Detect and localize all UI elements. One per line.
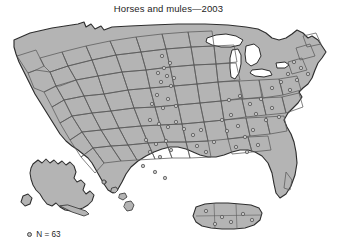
map-dot-marker [141,164,144,167]
map-dot-marker [220,215,223,218]
dot-distribution-map-figure: Horses and mules—2003 [0,0,337,249]
map-dot-marker [150,102,153,105]
map-dot-marker [169,84,172,87]
map-dot-marker [157,122,160,125]
map-dot-marker [245,150,248,153]
map-dot-marker [227,98,230,101]
map-dot-marker [238,94,241,97]
map-dot-marker [172,76,175,79]
map-dot-marker [204,209,207,212]
map-dot-marker [164,139,167,142]
map-dot-marker [306,72,309,75]
map-dot-marker [162,66,165,69]
map-dot-marker [166,97,169,100]
map-dot-marker [154,142,157,145]
map-dot-marker [241,212,244,215]
map-dot-marker [220,118,223,121]
map-dot-marker [191,133,194,136]
us-map-graphic [0,0,337,249]
map-dot-marker [155,93,158,96]
map-dot-marker [144,138,147,141]
open-circle-marker-icon [27,232,32,237]
map-dot-marker [153,170,156,173]
map-dot-marker [288,88,291,91]
map-dot-marker [243,135,246,138]
map-dot-marker [169,148,172,151]
map-landmasses [14,22,326,229]
map-dot-marker [259,97,262,100]
map-dot-marker [165,74,168,77]
map-dot-marker [148,150,151,153]
legend-count-label: N = 63 [36,230,60,239]
map-dot-marker [156,71,159,74]
map-dot-marker [212,140,215,143]
map-dot-marker [250,218,253,221]
map-dot-marker [158,155,161,158]
map-dot-marker [229,220,232,223]
map-dot-marker [234,145,237,148]
map-dot-marker [174,104,177,107]
map-dot-marker [256,143,259,146]
map-dot-marker [299,66,302,69]
map-dot-marker [264,118,267,121]
map-dot-marker [148,118,151,121]
map-dot-marker [168,61,171,64]
map-dot-marker [163,176,166,179]
alaska-inset-landmass [21,159,94,211]
map-dot-marker [277,115,280,118]
map-dot-marker [270,86,273,89]
map-legend: N = 63 [27,230,61,239]
map-dot-marker [248,102,251,105]
map-dot-marker [295,78,298,81]
map-dot-marker [292,60,295,63]
map-dot-marker [195,144,198,147]
map-dot-marker [182,127,185,130]
map-dot-marker [225,129,228,132]
map-dot-marker [161,106,164,109]
map-dot-marker [166,125,169,128]
map-dot-marker [270,106,273,109]
map-dot-marker [204,150,207,153]
map-dot-marker [251,128,254,131]
map-dot-marker [213,222,216,225]
map-dot-marker [236,124,239,127]
map-dot-marker [160,54,163,57]
map-dot-marker [174,120,177,123]
map-dot-marker [229,113,232,116]
map-dot-marker [199,128,202,131]
map-dot-marker [286,72,289,75]
map-dot-marker [159,80,162,83]
map-dot-marker [279,80,282,83]
map-dot-marker [254,112,257,115]
